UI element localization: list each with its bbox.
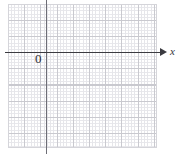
graph-paper-grid — [8, 4, 157, 148]
graph-figure: x 0 — [0, 0, 180, 154]
x-axis-arrowhead-icon — [160, 48, 167, 56]
x-axis-label: x — [170, 45, 175, 57]
origin-label: 0 — [35, 52, 42, 66]
y-axis-line — [46, 0, 47, 154]
x-axis-line — [5, 52, 164, 54]
